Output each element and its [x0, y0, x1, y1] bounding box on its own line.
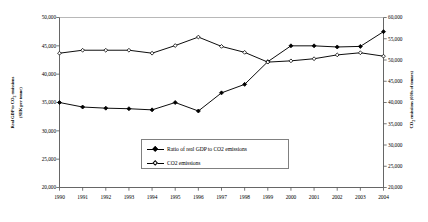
y-axis-left-tick-label: 50,000 [8, 14, 56, 20]
y-axis-right-tick-label: 35,000 [388, 121, 428, 127]
y-axis-right-tick-label: 40,000 [388, 99, 428, 105]
open-diamond-icon [147, 160, 164, 166]
y-axis-left-tick-label: 40,000 [8, 71, 56, 77]
y-axis-left-tick-label: 30,000 [8, 128, 56, 134]
y-axis-left-tick-label: 25,000 [8, 156, 56, 162]
plot-area [0, 0, 428, 222]
y-axis-right-tick-label: 45,000 [388, 78, 428, 84]
y-axis-right-tick-label: 30,000 [388, 142, 428, 148]
y-axis-right-tick-label: 50,000 [388, 57, 428, 63]
legend-item-label: Ratio of real GDP to CO2 emissions [167, 146, 247, 152]
chart-container: Real GDP to CO2 emissions (SEK per tonne… [0, 0, 428, 222]
y-axis-right-tick-label: 25,000 [388, 163, 428, 169]
y-axis-right-tick-label: 60,000 [388, 14, 428, 20]
x-axis-tick-label: 2004 [370, 194, 398, 200]
y-axis-right-tick-label: 20,000 [388, 184, 428, 190]
y-axis-left-tick-label: 35,000 [8, 99, 56, 105]
legend-item-label: CO2 emissions [167, 160, 200, 166]
legend-item[interactable]: CO2 emissions [147, 160, 200, 166]
filled-diamond-icon [147, 146, 164, 152]
y-axis-right-tick-label: 55,000 [388, 36, 428, 42]
legend-item[interactable]: Ratio of real GDP to CO2 emissions [147, 146, 247, 152]
y-axis-left-tick-label: 20,000 [8, 184, 56, 190]
y-axis-left-tick-label: 45,000 [8, 43, 56, 49]
